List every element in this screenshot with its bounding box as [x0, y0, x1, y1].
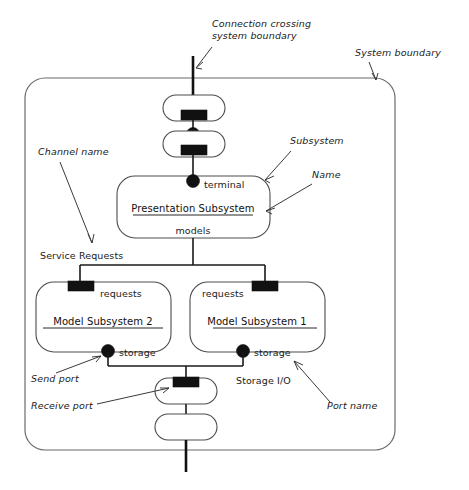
bottom-outer-node[interactable]: [155, 414, 217, 440]
model-subsystem-2-storage-label: storage: [119, 347, 156, 358]
receive-port-icon-top-inner[interactable]: [181, 145, 207, 155]
presentation-models-label: models: [175, 225, 210, 236]
presentation-terminal-label: terminal: [204, 179, 244, 190]
receive-port-icon-bottom[interactable]: [173, 377, 199, 387]
model-subsystem-2-name: Model Subsystem 2: [53, 316, 153, 327]
arrowhead-channel-name: [88, 234, 94, 243]
annotation-name: Name: [312, 169, 341, 180]
annotation-subsystem: Subsystem: [290, 135, 344, 146]
annotation-receive-port: Receive port: [31, 400, 94, 411]
model-subsystem-1-name: Model Subsystem 1: [207, 316, 307, 327]
annotation-send-port: Send port: [31, 373, 80, 384]
requests-receive-port-icon-model1[interactable]: [252, 281, 278, 291]
requests-receive-port-icon-model2[interactable]: [68, 281, 94, 291]
storage-io-channel-label: Storage I/O: [236, 375, 291, 386]
annotation-leader-subsystem: [265, 151, 291, 180]
annotation-leader-name: [266, 184, 312, 211]
annotation-channel-name: Channel name: [38, 146, 109, 157]
annotation-connection-crossing-line1: Connection crossing: [212, 18, 311, 29]
annotation-leader-send-port: [56, 356, 101, 373]
annotation-system-boundary: System boundary: [355, 47, 441, 58]
annotation-leader-connection-crossing: [196, 47, 212, 68]
service-requests-channel-label: Service Requests: [40, 250, 123, 261]
system-boundary-diagram: terminal Presentation Subsystem models S…: [0, 0, 469, 490]
model-subsystem-1-storage-label: storage: [254, 347, 291, 358]
diagram-canvas: terminal Presentation Subsystem models S…: [0, 0, 469, 490]
annotation-port-name: Port name: [327, 400, 377, 411]
receive-port-icon-top-outer[interactable]: [181, 110, 207, 120]
annotation-leader-channel-name: [60, 162, 92, 243]
terminal-port-icon[interactable]: [187, 175, 200, 188]
model-subsystem-2-requests-label: requests: [100, 288, 142, 299]
annotation-connection-crossing-line2: system boundary: [212, 30, 297, 41]
arrowhead-subsystem: [265, 176, 274, 183]
presentation-subsystem-name: Presentation Subsystem: [131, 203, 254, 214]
annotation-leader-port-name: [294, 361, 330, 402]
model-subsystem-1-requests-label: requests: [202, 288, 244, 299]
